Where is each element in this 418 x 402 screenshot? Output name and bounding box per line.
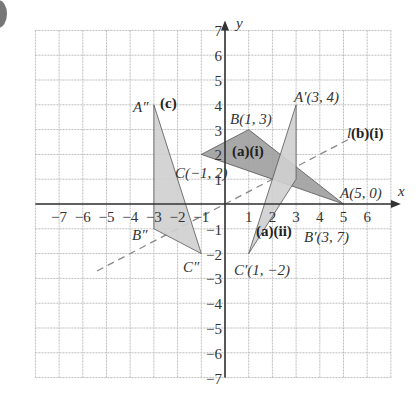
label-A: A(5, 0) <box>339 185 382 202</box>
label-B-double-prime: B″ <box>132 227 148 243</box>
label-part-a-ii: (a)(ii) <box>256 223 292 240</box>
label-A-double-prime: A″ <box>132 99 149 115</box>
x-tick-label: 6 <box>363 209 371 225</box>
y-tick-label: 7 <box>215 23 223 39</box>
x-tick-label: −6 <box>75 209 91 225</box>
x-tick-label: 3 <box>292 209 300 225</box>
coordinate-figure: −7−6−5−4−3−2−11234567654321−1−2−3−4−5−6−… <box>0 0 418 402</box>
y-tick-label: −4 <box>206 296 222 312</box>
label-part-c: (c) <box>160 95 177 112</box>
y-tick-label: 5 <box>215 73 223 89</box>
x-tick-label: 1 <box>245 209 253 225</box>
x-tick-label: 4 <box>316 209 324 225</box>
y-tick-label: 3 <box>215 123 223 139</box>
y-tick-label: −6 <box>206 346 222 362</box>
label-C-prime: C′(1, −2) <box>234 262 290 279</box>
y-tick-label: 6 <box>215 48 223 64</box>
y-tick-label: −5 <box>206 321 222 337</box>
y-tick-label: 4 <box>215 98 223 114</box>
x-tick-label: −5 <box>99 209 115 225</box>
x-tick-label: −2 <box>170 209 186 225</box>
label-part-a-i: (a)(i) <box>232 143 264 160</box>
page-margin-mark <box>0 0 7 28</box>
y-tick-label: −1 <box>206 222 222 238</box>
x-tick-label: −3 <box>146 209 162 225</box>
label-B-prime: B′(3, 7) <box>304 229 349 246</box>
x-tick-label: −4 <box>122 209 138 225</box>
y-tick-label: −2 <box>206 247 222 263</box>
tick-labels: −7−6−5−4−3−2−11234567654321−1−2−3−4−5−6−… <box>51 23 371 386</box>
label-A-prime: A′(3, 4) <box>293 89 339 106</box>
x-tick-label: 5 <box>340 209 348 225</box>
label-y-axis: y <box>234 15 243 31</box>
label-B: B(1, 3) <box>230 111 272 128</box>
label-C-double-prime: C″ <box>183 259 200 275</box>
y-tick-label: 2 <box>215 147 223 163</box>
label-part-b-i: (b)(i) <box>351 125 384 142</box>
label-C: C(−1, 2) <box>175 165 228 182</box>
x-tick-label: −7 <box>51 209 67 225</box>
label-x-axis: x <box>397 183 405 199</box>
y-tick-label: −3 <box>206 271 222 287</box>
y-tick-label: −7 <box>206 371 222 387</box>
